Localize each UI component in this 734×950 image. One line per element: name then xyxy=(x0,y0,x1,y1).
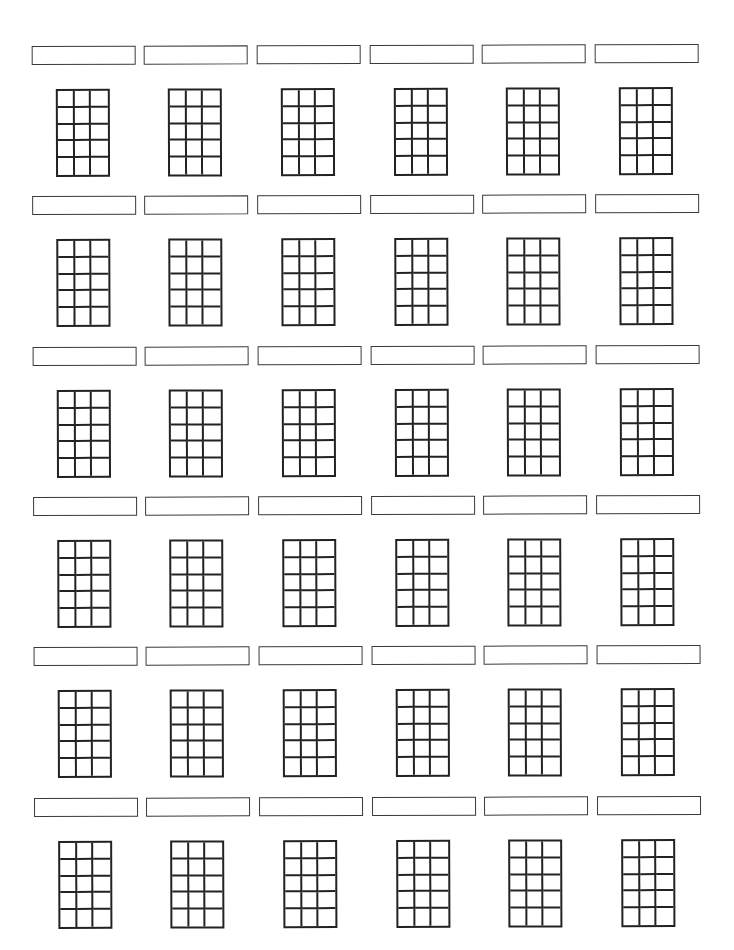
chord-name-field[interactable] xyxy=(371,346,475,365)
chord-name-field[interactable] xyxy=(258,496,362,515)
chord-name-field[interactable] xyxy=(145,496,249,515)
chord-chart xyxy=(595,194,701,334)
fret-cell xyxy=(74,91,91,108)
chord-name-field[interactable] xyxy=(144,45,248,64)
fret-cell xyxy=(397,424,414,441)
fret-cell xyxy=(94,860,111,877)
fret-cell xyxy=(172,910,189,927)
chord-name-field[interactable] xyxy=(144,195,248,214)
fret-cell xyxy=(205,691,222,708)
fret-cell xyxy=(414,724,431,741)
chord-name-field[interactable] xyxy=(33,497,137,516)
fret-cell xyxy=(204,425,221,442)
chord-name-field[interactable] xyxy=(483,495,587,514)
fret-cell xyxy=(76,692,93,709)
fret-cell xyxy=(542,256,559,273)
fret-cell xyxy=(92,409,109,426)
chord-name-field[interactable] xyxy=(372,646,476,665)
fret-cell xyxy=(542,458,559,475)
fret-cell xyxy=(430,273,447,290)
fret-cell xyxy=(415,892,432,909)
fretboard-grid xyxy=(57,540,111,628)
fretboard-grid xyxy=(170,689,224,777)
fret-cell xyxy=(187,308,204,325)
fret-cell xyxy=(77,876,94,893)
fret-cell xyxy=(413,273,430,290)
fret-cell xyxy=(75,274,92,291)
chord-name-field[interactable] xyxy=(146,797,250,816)
chord-name-field[interactable] xyxy=(482,194,586,213)
fret-cell xyxy=(93,592,110,609)
chord-name-field[interactable] xyxy=(482,44,586,63)
fret-cell xyxy=(638,424,655,441)
fret-cell xyxy=(543,591,560,608)
chord-name-field[interactable] xyxy=(371,496,475,515)
fretboard-grid xyxy=(58,841,112,929)
fret-cell xyxy=(414,691,431,708)
fret-cell xyxy=(93,692,110,709)
fret-cell xyxy=(414,708,431,725)
fret-cell xyxy=(541,123,558,140)
fret-cell xyxy=(170,141,187,158)
chord-chart xyxy=(144,45,250,185)
fret-cell xyxy=(60,692,77,709)
fret-cell xyxy=(527,892,544,909)
fret-cell xyxy=(398,859,415,876)
fret-cell xyxy=(656,574,673,591)
chord-name-field[interactable] xyxy=(484,796,588,815)
chord-name-field[interactable] xyxy=(597,645,701,664)
fret-cell xyxy=(318,758,335,775)
fret-cell xyxy=(430,240,447,257)
chord-name-field[interactable] xyxy=(257,195,361,214)
chord-name-field[interactable] xyxy=(146,646,250,665)
fret-cell xyxy=(92,291,109,308)
fret-cell xyxy=(283,157,300,174)
chord-name-field[interactable] xyxy=(257,45,361,64)
fret-cell xyxy=(75,409,92,426)
chord-name-field[interactable] xyxy=(370,45,474,64)
chord-name-field[interactable] xyxy=(597,796,701,815)
chord-name-field[interactable] xyxy=(370,195,474,214)
chord-name-field[interactable] xyxy=(33,347,137,366)
fret-cell xyxy=(397,391,414,408)
fret-cell xyxy=(285,909,302,926)
fret-cell xyxy=(76,725,93,742)
chord-chart xyxy=(33,347,139,487)
chord-name-field[interactable] xyxy=(34,647,138,666)
fret-cell xyxy=(657,891,674,908)
fret-cell xyxy=(527,909,544,926)
fret-cell xyxy=(206,910,223,927)
fret-cell xyxy=(300,391,317,408)
chord-name-field[interactable] xyxy=(32,196,136,215)
chord-name-field[interactable] xyxy=(259,646,363,665)
fret-cell xyxy=(431,741,448,758)
fret-cell xyxy=(285,708,302,725)
chord-name-field[interactable] xyxy=(596,495,700,514)
fret-cell xyxy=(317,425,334,442)
fret-cell xyxy=(432,859,449,876)
fret-cell xyxy=(318,591,335,608)
chord-name-field[interactable] xyxy=(32,46,136,65)
fret-cell xyxy=(203,124,220,141)
fret-cell xyxy=(414,541,431,558)
chord-chart xyxy=(596,495,702,635)
chord-name-field[interactable] xyxy=(595,194,699,213)
fretboard-grid xyxy=(396,689,450,777)
chord-name-field[interactable] xyxy=(595,44,699,63)
chord-name-field[interactable] xyxy=(483,345,587,364)
fret-cell xyxy=(285,876,302,893)
fret-cell xyxy=(397,591,414,608)
chord-name-field[interactable] xyxy=(34,798,138,817)
fret-cell xyxy=(414,441,431,458)
chord-name-field[interactable] xyxy=(596,345,700,364)
fretboard-grid xyxy=(507,538,561,626)
chord-name-field[interactable] xyxy=(259,797,363,816)
fret-cell xyxy=(655,440,672,457)
fret-cell xyxy=(60,893,77,910)
chord-name-field[interactable] xyxy=(145,346,249,365)
chord-name-field[interactable] xyxy=(372,797,476,816)
chord-name-field[interactable] xyxy=(258,346,362,365)
chord-name-field[interactable] xyxy=(484,645,588,664)
fret-cell xyxy=(657,858,674,875)
fret-cell xyxy=(205,842,222,859)
